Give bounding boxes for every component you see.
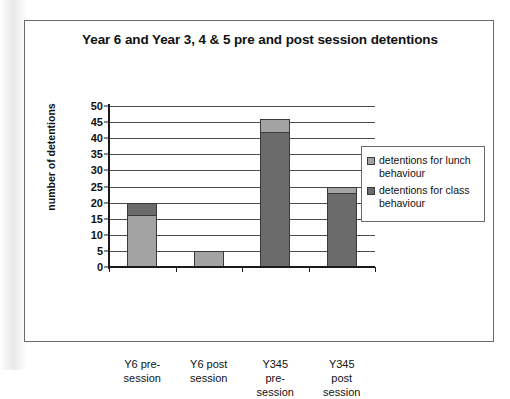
chart-container: Year 6 and Year 3, 4 & 5 pre and post se…: [24, 20, 494, 342]
x-tick-mark: [375, 267, 376, 272]
bar-segment-lunch[interactable]: [260, 119, 290, 132]
gridline: [109, 170, 375, 171]
bar-segment-lunch[interactable]: [194, 251, 224, 267]
gridline: [109, 154, 375, 155]
x-tick-mark: [176, 267, 177, 272]
legend-item-class[interactable]: detentions for class behaviour: [366, 184, 480, 210]
x-axis-category-line: session: [176, 372, 243, 386]
x-axis-category-line: Y345: [242, 358, 309, 372]
bar-segment-class[interactable]: [327, 193, 357, 267]
x-tick-mark: [242, 267, 243, 272]
x-axis-category-line: Y6 post: [176, 358, 243, 372]
legend-swatch-lunch-icon: [367, 157, 375, 165]
y-axis-title: number of detentions: [45, 87, 57, 227]
plot-area: 05101520253035404550 Y6 pre-sessionY6 po…: [109, 106, 375, 267]
y-tick-label: 40: [91, 132, 103, 144]
gridline: [109, 106, 375, 107]
y-tick-label: 50: [91, 100, 103, 112]
legend-item-lunch[interactable]: detentions for lunch behaviour: [366, 154, 480, 180]
bar-column[interactable]: [327, 187, 357, 267]
x-axis-category-label: Y6 pre-session: [109, 358, 176, 386]
y-tick-label: 15: [91, 213, 103, 225]
legend-swatch-class-icon: [367, 187, 375, 195]
scanned-page-margin: [0, 0, 26, 370]
gridline: [109, 122, 375, 123]
x-axis-category-line: Y6 pre-: [109, 358, 176, 372]
x-axis-category-line: session: [309, 386, 376, 399]
x-axis-category-line: pre-: [242, 372, 309, 386]
legend-label-class: detentions for class behaviour: [379, 184, 480, 210]
legend-label-lunch: detentions for lunch behaviour: [379, 154, 480, 180]
y-tick-label: 45: [91, 116, 103, 128]
y-tick-label: 20: [91, 197, 103, 209]
y-tick-label: 0: [97, 261, 103, 273]
bar-column[interactable]: [127, 203, 157, 267]
x-axis-category-line: session: [109, 372, 176, 386]
x-axis-category-label: Y345postsession: [309, 358, 376, 399]
x-tick-mark: [109, 267, 110, 272]
x-axis-category-label: Y345pre-session: [242, 358, 309, 399]
bar-segment-class[interactable]: [127, 203, 157, 216]
gridline: [109, 138, 375, 139]
y-axis-line: [108, 104, 110, 269]
x-axis-category-line: Y345: [309, 358, 376, 372]
chart-title: Year 6 and Year 3, 4 & 5 pre and post se…: [55, 31, 465, 49]
bar-column[interactable]: [260, 119, 290, 267]
bar-segment-class[interactable]: [260, 132, 290, 267]
y-tick-label: 10: [91, 229, 103, 241]
y-tick-label: 25: [91, 181, 103, 193]
y-tick-label: 35: [91, 148, 103, 160]
x-axis-category-label: Y6 postsession: [176, 358, 243, 386]
bar-column[interactable]: [194, 251, 224, 267]
y-tick-label: 30: [91, 164, 103, 176]
x-tick-mark: [309, 267, 310, 272]
bar-segment-lunch[interactable]: [127, 215, 157, 267]
x-axis-category-line: post: [309, 372, 376, 386]
x-axis-category-line: session: [242, 386, 309, 399]
chart-legend: detentions for lunch behaviour detention…: [361, 146, 485, 222]
y-tick-label: 5: [97, 245, 103, 257]
plot-canvas: 05101520253035404550 Y6 pre-sessionY6 po…: [109, 106, 375, 267]
